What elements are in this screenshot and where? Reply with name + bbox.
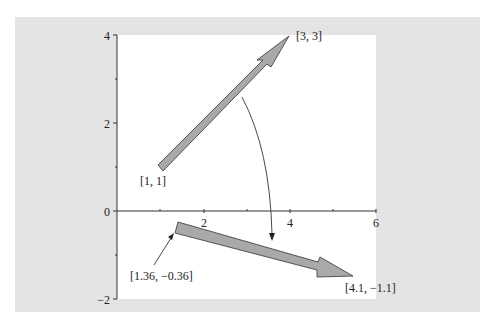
label-tail-rotated: [1.36, −0.36] [130, 269, 193, 283]
y-tick-0: 0 [104, 205, 110, 219]
figure-canvas: 4 2 0 −2 2 4 6 [3, 3] [1, 1] [1.36, −0. [0, 0, 497, 326]
x-tick-6: 6 [373, 216, 379, 230]
y-tick-4: 4 [104, 29, 110, 43]
y-tick-2: 2 [104, 117, 110, 131]
label-tip-rotated: [4.1, −1.1] [345, 281, 396, 295]
y-tick-minus2: −2 [97, 293, 110, 307]
vector-rotation-figure: 4 2 0 −2 2 4 6 [3, 3] [1, 1] [1.36, −0. [0, 0, 497, 326]
x-tick-2: 2 [201, 216, 207, 230]
label-tip-original: [3, 3] [296, 29, 322, 43]
label-tail-original: [1, 1] [140, 174, 166, 188]
plot-area [117, 35, 376, 299]
x-tick-4: 4 [287, 216, 293, 230]
